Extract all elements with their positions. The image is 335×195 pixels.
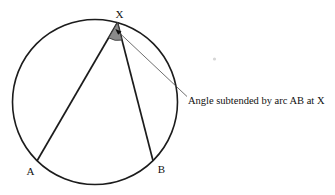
- chord-xa: [37, 23, 117, 161]
- label-point-a: A: [27, 165, 35, 177]
- circle-theorem-diagram: X A B Angle subtended by arc AB at X: [0, 0, 335, 195]
- stray-dot: [213, 57, 216, 60]
- chord-xb: [118, 23, 154, 161]
- geometry-figure: X A B Angle subtended by arc AB at X: [0, 0, 335, 195]
- label-vertex-x: X: [116, 8, 124, 20]
- label-point-b: B: [158, 163, 165, 175]
- annotation-text: Angle subtended by arc AB at X: [188, 95, 325, 106]
